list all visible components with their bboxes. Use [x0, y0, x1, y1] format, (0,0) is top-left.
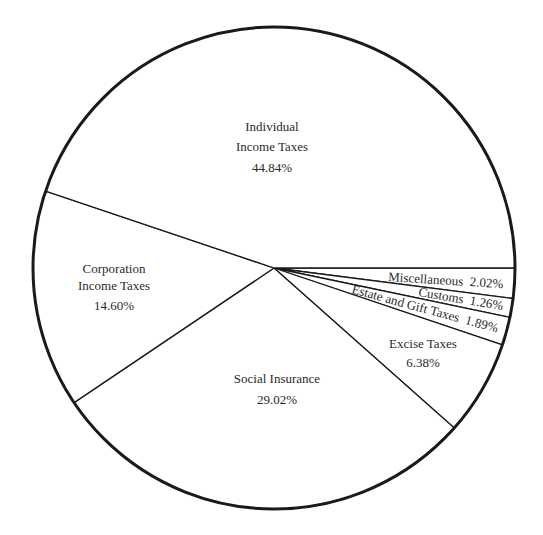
- corporation-label-value: 14.60%: [94, 298, 134, 313]
- social-insurance-label-line1: Social Insurance: [234, 371, 321, 386]
- excise-label-value: 6.38%: [406, 355, 440, 370]
- individual-label-value: 44.84%: [252, 160, 292, 175]
- pie-chart: Individual Income Taxes 44.84% Corporati…: [0, 0, 543, 535]
- social-insurance-label-value: 29.02%: [257, 392, 297, 407]
- individual-label-line1: Individual: [245, 119, 299, 134]
- corporation-label-line2: Income Taxes: [78, 278, 150, 293]
- corporation-label-line1: Corporation: [83, 261, 146, 276]
- individual-label-line2: Income Taxes: [236, 139, 308, 154]
- excise-label-line1: Excise Taxes: [389, 336, 457, 351]
